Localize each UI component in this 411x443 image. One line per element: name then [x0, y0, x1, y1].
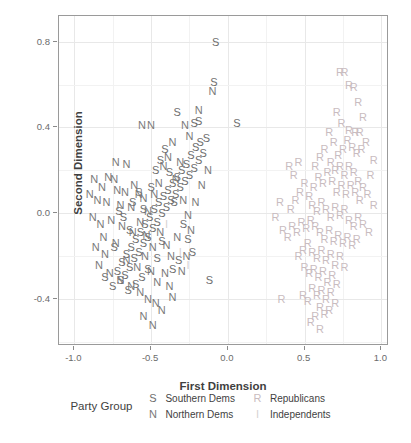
data-point-n: N: [121, 186, 129, 197]
data-point-r: R: [333, 186, 341, 197]
data-point-s: S: [190, 118, 197, 129]
gridline-horizontal-minor: [59, 85, 387, 86]
data-point-n: N: [112, 238, 120, 249]
x-tick-mark: [150, 346, 151, 350]
data-point-n: N: [93, 195, 101, 206]
gridline-horizontal: [59, 42, 387, 43]
data-point-r: R: [367, 169, 375, 180]
data-point-r: R: [316, 323, 324, 334]
gridline-vertical: [228, 16, 229, 344]
data-point-n: N: [164, 152, 172, 163]
data-point-n: N: [150, 188, 158, 199]
data-point-n: N: [179, 195, 187, 206]
data-point-n: N: [155, 178, 163, 189]
y-tick-mark: [53, 298, 57, 299]
y-tick-label: 0.8: [16, 35, 50, 46]
x-tick-mark: [304, 346, 305, 350]
legend-title: Party Group: [70, 400, 132, 412]
plot-panel-wrapper: SSSSSSSSSSSSSSSSSSSSSSSSSSSSSSSSSSSSSSSS…: [58, 15, 388, 345]
data-point-n: N: [138, 120, 146, 131]
data-point-n: N: [158, 304, 166, 315]
data-point-r: R: [290, 169, 298, 180]
data-point-r: R: [299, 289, 307, 300]
x-tick-label: 0.5: [297, 352, 310, 363]
data-point-n: N: [133, 261, 141, 272]
gridline-vertical-minor: [266, 16, 267, 344]
data-point-n: N: [136, 216, 144, 227]
data-point-r: R: [333, 107, 341, 118]
data-point-s: S: [174, 107, 181, 118]
data-point-n: N: [106, 268, 114, 279]
x-tick-mark: [73, 346, 74, 350]
data-point-n: N: [143, 229, 151, 240]
data-point-n: N: [123, 255, 131, 266]
data-point-n: N: [129, 227, 137, 238]
data-point-s: S: [233, 118, 240, 129]
data-point-n: N: [184, 210, 192, 221]
data-point-r: R: [359, 111, 367, 122]
data-point-r: R: [325, 304, 333, 315]
data-point-i: I: [186, 259, 189, 270]
data-point-n: N: [185, 131, 193, 142]
data-point-r: R: [354, 96, 362, 107]
y-tick-label: 0.4: [16, 121, 50, 132]
data-point-r: R: [365, 227, 373, 238]
data-point-n: N: [172, 173, 180, 184]
data-point-n: N: [116, 274, 124, 285]
data-point-n: N: [96, 218, 104, 229]
data-point-n: N: [116, 199, 124, 210]
data-point-s: S: [154, 253, 161, 264]
y-tick-mark: [53, 126, 57, 127]
data-point-n: N: [107, 214, 115, 225]
data-point-n: N: [149, 319, 157, 330]
legend-label[interactable]: Southern Dems: [165, 393, 244, 404]
data-point-r: R: [271, 212, 279, 223]
data-point-n: N: [204, 165, 212, 176]
legend-glyph-s-icon: S: [146, 392, 159, 404]
data-point-r: R: [294, 156, 302, 167]
data-point-s: S: [109, 281, 116, 292]
data-point-r: R: [325, 126, 333, 137]
x-tick-label: 1.0: [374, 352, 387, 363]
data-point-r: R: [307, 317, 315, 328]
data-point-r: R: [330, 137, 338, 148]
x-tick-label: 0.0: [220, 352, 233, 363]
data-point-n: N: [127, 281, 135, 292]
data-point-n: N: [176, 156, 184, 167]
plot-panel: SSSSSSSSSSSSSSSSSSSSSSSSSSSSSSSSSSSSSSSS…: [58, 15, 388, 345]
data-point-n: N: [141, 251, 149, 262]
y-tick-label: -0.4: [16, 292, 50, 303]
data-point-r: R: [337, 118, 345, 129]
gridline-horizontal-minor: [59, 342, 387, 343]
legend-label[interactable]: Republicans: [270, 393, 341, 404]
data-point-n: N: [92, 242, 100, 253]
data-point-r: R: [276, 197, 284, 208]
x-axis-label: First Dimension: [58, 380, 388, 392]
data-point-n: N: [90, 173, 98, 184]
data-point-n: N: [144, 206, 152, 217]
data-point-n: N: [147, 120, 155, 131]
data-point-n: N: [156, 227, 164, 238]
legend-glyph-n-icon: N: [146, 408, 159, 420]
data-point-n: N: [123, 158, 131, 169]
legend-label[interactable]: Northern Dems: [165, 409, 244, 420]
data-point-r: R: [287, 203, 295, 214]
data-point-r: R: [341, 66, 349, 77]
data-point-s: S: [170, 197, 177, 208]
chart-root: SSSSSSSSSSSSSSSSSSSSSSSSSSSSSSSSSSSSSSSS…: [0, 0, 411, 443]
x-tick-label: -1.0: [65, 352, 81, 363]
legend-label[interactable]: Independents: [270, 409, 341, 420]
y-tick-mark: [53, 212, 57, 213]
data-point-s: S: [206, 274, 213, 285]
data-point-n: N: [169, 291, 177, 302]
legend-keys: SSouthern DemsRRepublicansNNorthern Dems…: [146, 392, 340, 420]
data-point-n: N: [161, 268, 169, 279]
data-point-r: R: [327, 212, 335, 223]
data-point-n: N: [173, 231, 181, 242]
data-point-r: R: [279, 225, 287, 236]
data-point-r: R: [278, 293, 286, 304]
legend-glyph-i-icon: I: [251, 408, 264, 420]
x-tick-label: -0.5: [142, 352, 158, 363]
legend: Party Group SSouthern DemsRRepublicansNN…: [0, 392, 411, 420]
data-point-n: N: [149, 242, 157, 253]
